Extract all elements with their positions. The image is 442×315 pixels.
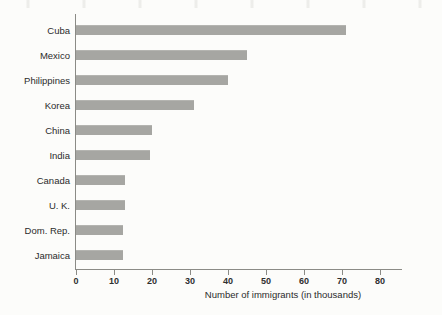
x-tick [304, 270, 305, 275]
x-tick-label: 0 [73, 276, 78, 286]
x-tick [190, 270, 191, 275]
bar-row: India [0, 142, 442, 167]
bar [76, 50, 247, 60]
x-tick [380, 270, 381, 275]
bar [76, 200, 125, 210]
x-tick-label: 50 [261, 276, 271, 286]
x-tick-label: 60 [299, 276, 309, 286]
x-tick [228, 270, 229, 275]
bar [76, 100, 194, 110]
x-tick [342, 270, 343, 275]
chart-page: 01020304050607080 CubaMexicoPhilippinesK… [0, 0, 442, 315]
bar [76, 150, 150, 160]
bar [76, 250, 123, 260]
bar-row: Canada [0, 167, 442, 192]
x-tick [266, 270, 267, 275]
x-axis-title-text: Number of immigrants (in thousands) [205, 289, 361, 300]
bar [76, 225, 123, 235]
bar-chart: 01020304050607080 CubaMexicoPhilippinesK… [0, 0, 442, 315]
category-label: Mexico [40, 49, 70, 60]
bar-row: Cuba [0, 17, 442, 42]
category-label: India [49, 149, 70, 160]
category-label: U. K. [49, 199, 70, 210]
x-tick [76, 270, 77, 275]
x-tick-label: 80 [375, 276, 385, 286]
x-tick-label: 70 [337, 276, 347, 286]
category-label: Canada [37, 174, 70, 185]
bar [76, 75, 228, 85]
category-label: Philippines [24, 74, 70, 85]
bar [76, 25, 346, 35]
x-tick-label: 10 [109, 276, 119, 286]
x-tick-label: 40 [223, 276, 233, 286]
bar-row: Dom. Rep. [0, 217, 442, 242]
x-axis-line [75, 269, 402, 270]
x-tick [152, 270, 153, 275]
category-label: Jamaica [35, 249, 70, 260]
x-tick-label: 20 [147, 276, 157, 286]
x-tick-label: 30 [185, 276, 195, 286]
bar-row: Korea [0, 92, 442, 117]
bar-row: U. K. [0, 192, 442, 217]
bar [76, 125, 152, 135]
x-axis-title: Number of immigrants (in thousands) [0, 289, 442, 300]
category-label: Cuba [47, 24, 70, 35]
x-tick [114, 270, 115, 275]
bar [76, 175, 125, 185]
category-label: Dom. Rep. [25, 224, 70, 235]
bar-row: China [0, 117, 442, 142]
category-label: China [45, 124, 70, 135]
category-label: Korea [45, 99, 70, 110]
bar-row: Mexico [0, 42, 442, 67]
bar-row: Jamaica [0, 242, 442, 267]
bar-row: Philippines [0, 67, 442, 92]
